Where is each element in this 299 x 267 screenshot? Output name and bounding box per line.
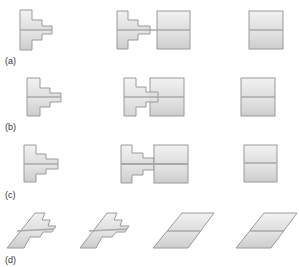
panel-label-b: (b)	[5, 122, 16, 132]
panel-d	[7, 213, 297, 248]
panel-label-d: (d)	[5, 255, 16, 265]
panel-c	[24, 145, 277, 183]
panel-a	[20, 10, 283, 50]
panel-label-a: (a)	[5, 56, 16, 66]
panel-b	[27, 78, 275, 116]
panel-label-c: (c)	[5, 190, 16, 200]
diagram-canvas	[0, 0, 299, 267]
